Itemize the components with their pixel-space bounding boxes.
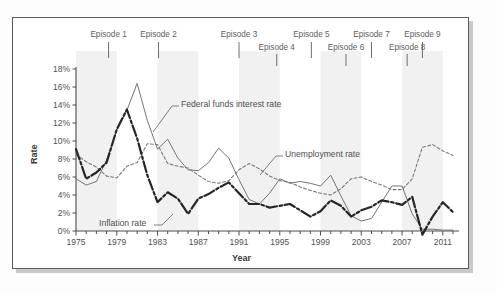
episode-label: Episode 4 <box>249 43 305 52</box>
y-tick-label: 6% <box>58 172 70 182</box>
x-tick-label: 1983 <box>140 237 176 247</box>
series-annotation: Inflation rate <box>99 218 146 228</box>
figure-canvas: 0%2%4%6%8%10%12%14%16%18%197519791983198… <box>0 0 497 294</box>
y-axis-title: Rate <box>29 144 39 164</box>
episode-label: Episode 3 <box>211 30 267 39</box>
x-axis-title: Year <box>13 253 470 263</box>
x-tick-label: 2003 <box>343 237 379 247</box>
x-tick-label: 1991 <box>221 237 257 247</box>
episode-label: Episode 7 <box>343 30 399 39</box>
y-tick-label: 2% <box>58 208 70 218</box>
series-annotation: Unemployment rate <box>285 149 360 159</box>
episode-label: Episode 5 <box>283 30 339 39</box>
x-tick-label: 1987 <box>180 237 216 247</box>
x-tick-label: 2007 <box>384 237 420 247</box>
shading-band <box>76 51 117 231</box>
plot-area: 0%2%4%6%8%10%12%14%16%18%197519791983198… <box>13 18 470 270</box>
chart-svg <box>13 18 470 270</box>
chart-frame: 0%2%4%6%8%10%12%14%16%18%197519791983198… <box>12 17 469 269</box>
x-tick-label: 1999 <box>303 237 339 247</box>
y-tick-label: 12% <box>53 118 70 128</box>
episode-label: Episode 6 <box>318 43 374 52</box>
x-tick-label: 1995 <box>262 237 298 247</box>
y-tick-label: 16% <box>53 82 70 92</box>
x-tick-label: 1979 <box>99 237 135 247</box>
y-tick-label: 8% <box>58 154 70 164</box>
y-tick-label: 14% <box>53 100 70 110</box>
x-tick-label: 2011 <box>425 237 461 247</box>
episode-label: Episode 9 <box>394 30 450 39</box>
y-tick-label: 4% <box>58 190 70 200</box>
series-annotation: Federal funds interest rate <box>181 99 281 109</box>
episode-label: Episode 1 <box>81 30 137 39</box>
episode-label: Episode 2 <box>131 30 187 39</box>
y-tick-label: 10% <box>53 136 70 146</box>
x-tick-label: 1975 <box>58 237 94 247</box>
y-tick-label: 0% <box>58 226 70 236</box>
y-tick-label: 18% <box>53 64 70 74</box>
episode-label: Episode 8 <box>379 43 435 52</box>
shading-band <box>158 51 199 231</box>
